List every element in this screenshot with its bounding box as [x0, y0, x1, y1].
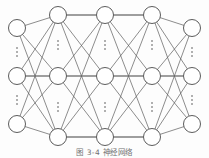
- ellipsis-2-bottom-dot-2: [57, 106, 59, 108]
- ellipsis-1-top-dot-3: [16, 55, 18, 57]
- ellipsis-2-top-dot-1: [57, 40, 59, 42]
- ellipsis-5-bottom-dot-2: [191, 99, 193, 101]
- edge-4-3-to-5-3: [160, 127, 184, 135]
- node-2-2: [50, 68, 67, 85]
- node-5-1: [184, 20, 201, 37]
- edge-4-2-to-5-3: [157, 83, 186, 118]
- node-2-1: [50, 7, 67, 24]
- ellipsis-3-bottom-dot-2: [104, 106, 106, 108]
- ellipsis-5-top-dot-3: [191, 55, 193, 57]
- node-5-3: [184, 116, 201, 133]
- ellipsis-3-top-dot-1: [104, 40, 106, 42]
- node-1-2: [9, 68, 26, 85]
- edge-1-2-to-2-3: [22, 83, 54, 130]
- ellipsis-2-bottom: [57, 102, 59, 112]
- edge-4-2-to-5-1: [157, 35, 186, 70]
- edge-4-3-to-5-1: [155, 36, 189, 129]
- ellipsis-4-top-dot-1: [151, 40, 153, 42]
- edge-1-1-to-2-2: [23, 34, 53, 69]
- edge-1-3-to-2-2: [23, 82, 53, 117]
- ellipsis-5-bottom: [191, 95, 193, 105]
- edge-1-1-to-2-3: [20, 36, 55, 129]
- edge-4-1-to-5-1: [160, 18, 184, 26]
- ellipsis-1-bottom: [16, 95, 18, 105]
- ellipsis-5-top-dot-1: [191, 47, 193, 49]
- node-4-3: [144, 129, 161, 146]
- edge-4-3-to-5-2: [157, 83, 188, 130]
- node-5-2: [184, 68, 201, 85]
- ellipsis-5-top-dot-2: [191, 51, 193, 53]
- edge-4-1-to-5-3: [155, 23, 189, 116]
- figure-caption: 图 3-4 神经网络: [0, 148, 209, 157]
- node-3-2: [97, 68, 114, 85]
- ellipsis-1-top: [16, 47, 18, 57]
- ellipsis-5-bottom-dot-3: [191, 103, 193, 105]
- edge-1-3-to-2-3: [25, 127, 50, 135]
- edge-1-2-to-2-1: [22, 22, 54, 69]
- node-1-3: [9, 116, 26, 133]
- neural-network-diagram: [0, 0, 209, 158]
- ellipsis-2-top-dot-3: [57, 48, 59, 50]
- ellipsis-1-bottom-dot-2: [16, 99, 18, 101]
- ellipsis-4-bottom-dot-1: [151, 102, 153, 104]
- ellipsis-4-top-dot-2: [151, 44, 153, 46]
- ellipsis-2-bottom-dot-1: [57, 102, 59, 104]
- ellipsis-2-top: [57, 40, 59, 50]
- node-4-1: [144, 7, 161, 24]
- ellipsis-5-bottom-dot-1: [191, 95, 193, 97]
- ellipsis-3-bottom-dot-1: [104, 102, 106, 104]
- edge-1-1-to-2-1: [25, 18, 50, 26]
- ellipsis-4-bottom-dot-2: [151, 106, 153, 108]
- node-3-3: [97, 129, 114, 146]
- ellipsis-4-bottom-dot-3: [151, 110, 153, 112]
- ellipsis-3-top-dot-2: [104, 44, 106, 46]
- ellipsis-1-bottom-dot-1: [16, 95, 18, 97]
- ellipsis-1-bottom-dot-3: [16, 103, 18, 105]
- ellipsis-3-top: [104, 40, 106, 50]
- ellipsis-1-top-dot-1: [16, 47, 18, 49]
- figure-root: 图 3-4 神经网络: [0, 0, 209, 158]
- node-2-3: [50, 129, 67, 146]
- ellipsis-4-top: [151, 40, 153, 50]
- ellipsis-1-top-dot-2: [16, 51, 18, 53]
- node-1-1: [9, 20, 26, 37]
- node-4-2: [144, 68, 161, 85]
- ellipsis-3-bottom-dot-3: [104, 110, 106, 112]
- ellipsis-4-bottom: [151, 102, 153, 112]
- edge-1-3-to-2-1: [20, 23, 55, 116]
- ellipsis-2-top-dot-2: [57, 44, 59, 46]
- node-3-1: [97, 7, 114, 24]
- ellipsis-2-bottom-dot-3: [57, 110, 59, 112]
- ellipsis-4-top-dot-3: [151, 48, 153, 50]
- edge-4-1-to-5-2: [157, 22, 188, 69]
- ellipsis-3-top-dot-3: [104, 48, 106, 50]
- ellipsis-3-bottom: [104, 102, 106, 112]
- ellipsis-5-top: [191, 47, 193, 57]
